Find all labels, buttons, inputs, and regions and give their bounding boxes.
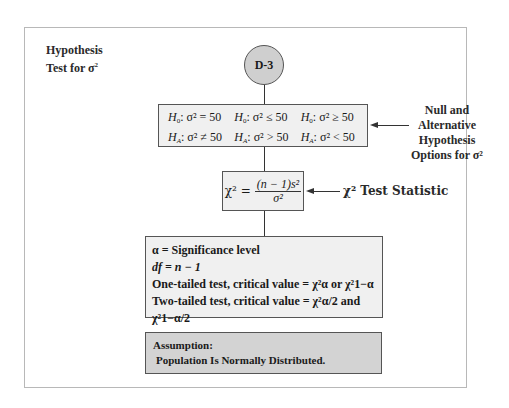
title-line-2-text: Test for σ [46, 61, 95, 75]
hypothesis-annotation: Null and Alternative Hypothesis Options … [407, 103, 487, 163]
h0-sub: 0 [177, 117, 181, 125]
hypothesis-box: H0: σ² = 50 H0: σ² ≤ 50 H0: σ² ≥ 50 HA: … [158, 104, 368, 147]
formula-lhs: χ² = [225, 184, 251, 198]
assumption-text: Population Is Normally Distributed. [153, 353, 381, 368]
connector-1 [264, 85, 265, 104]
two-tailed-line: Two-tailed test, critical value = χ²α/2 … [152, 293, 382, 327]
arrow-line [312, 191, 340, 192]
h0-option-1: σ² = 50 [187, 110, 222, 124]
formula-box: χ² = (n − 1)s² σ² [222, 171, 304, 211]
h0-cell: H0: σ² = 50 [168, 109, 234, 129]
ha-option-2: σ² > 50 [254, 130, 289, 144]
title-line-2: Test for σ2 [46, 58, 136, 76]
h0-label: H [168, 110, 177, 124]
connector-2 [264, 147, 265, 171]
ha-cell: HA: σ² < 50 [301, 129, 367, 149]
diagram-title: Hypothesis Test for σ2 [46, 43, 136, 76]
h0-cell: H0: σ² ≤ 50 [234, 109, 300, 129]
ha-sub: A [177, 137, 181, 145]
one-tailed-line: One-tailed test, critical value = χ²α or… [152, 276, 382, 293]
formula-denominator: σ² [273, 192, 283, 205]
connector-3 [264, 211, 265, 236]
annotation-line: Alternative [407, 118, 487, 133]
ha-sub: A [309, 137, 313, 145]
ha-cell: HA: σ² ≠ 50 [168, 129, 234, 149]
df-line: df = n − 1 [152, 259, 382, 276]
h0-row: H0: σ² = 50 H0: σ² ≤ 50 H0: σ² ≥ 50 [168, 109, 367, 129]
assumption-title: Assumption: [153, 338, 381, 353]
alpha-line: α = Significance level [152, 242, 382, 259]
ha-sub: A [243, 137, 247, 145]
details-box: α = Significance level df = n − 1 One-ta… [145, 236, 383, 318]
ha-label: H [234, 130, 243, 144]
ha-option-1: σ² ≠ 50 [187, 130, 222, 144]
h0-option-2: σ² ≤ 50 [253, 110, 288, 124]
h0-sub: 0 [243, 117, 247, 125]
h0-option-3: σ² ≥ 50 [319, 110, 354, 124]
h0-cell: H0: σ² ≥ 50 [301, 109, 367, 129]
formula-numerator: (n − 1)s² [255, 178, 301, 192]
node-label: D-3 [255, 58, 274, 73]
formula-annotation: χ² Test Statistic [343, 184, 448, 199]
h0-sub: 0 [309, 117, 313, 125]
formula-fraction: (n − 1)s² σ² [255, 178, 301, 205]
annotation-line: Options for σ² [407, 148, 487, 163]
assumption-box: Assumption: Population Is Normally Distr… [145, 332, 382, 374]
title-sup: 2 [95, 61, 99, 69]
ha-option-3: σ² < 50 [320, 130, 355, 144]
node-d3: D-3 [244, 45, 284, 85]
ha-row: HA: σ² ≠ 50 HA: σ² > 50 HA: σ² < 50 [168, 129, 367, 149]
title-line-1: Hypothesis [46, 43, 136, 58]
annotation-line: Null and [407, 103, 487, 118]
annotation-line: Hypothesis [407, 133, 487, 148]
arrow-line [376, 125, 409, 126]
h0-label: H [234, 110, 243, 124]
ha-label: H [168, 130, 177, 144]
ha-cell: HA: σ² > 50 [234, 129, 300, 149]
formula-annotation-text: χ² Test Statistic [343, 184, 448, 198]
